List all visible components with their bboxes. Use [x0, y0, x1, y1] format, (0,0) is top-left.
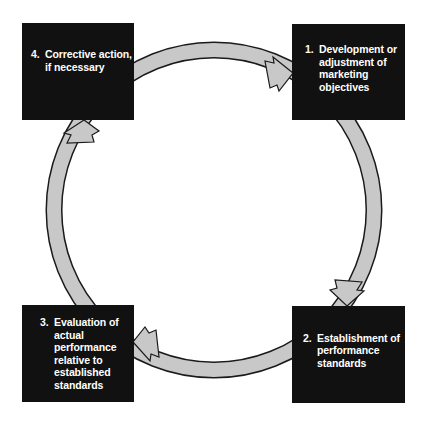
step-number: 4. [31, 48, 45, 73]
step-number: 1. [305, 43, 319, 93]
step-number: 2. [303, 332, 317, 370]
step-text: Establishment of performance standards [317, 332, 400, 370]
step-text: Corrective action, if necessary [45, 48, 132, 73]
step-text: Development or adjustment of marketing o… [319, 43, 397, 93]
step-number: 3. [40, 316, 54, 391]
step-box-3: 3. Evaluation of actual performance rela… [22, 305, 134, 402]
step-text: Evaluation of actual performance relativ… [54, 316, 119, 391]
step-box-1: 1. Development or adjustment of marketin… [292, 24, 405, 120]
arrowhead-3-to-4 [64, 120, 99, 143]
step-box-2: 2. Establishment of performance standard… [292, 306, 405, 403]
step-box-4: 4. Corrective action, if necessary [22, 23, 134, 120]
